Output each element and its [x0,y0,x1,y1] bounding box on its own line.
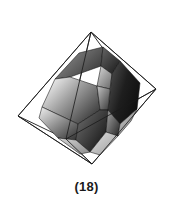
crystal-solid [39,47,140,155]
face-top-left-upper [55,47,103,79]
crystal-illustration [0,0,173,207]
figure-panel: (18) [0,0,173,207]
figure-caption: (18) [0,179,173,194]
